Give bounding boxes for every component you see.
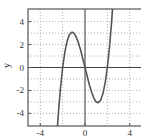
y-tick-label: 0	[20, 63, 25, 73]
y-axis-ticks: -4-2024	[17, 17, 32, 119]
x-tick-label: -4	[37, 128, 45, 138]
x-tick-label: 4	[127, 128, 132, 138]
y-tick-label: -4	[17, 108, 25, 118]
chart: -404 -4-2024 y	[0, 0, 141, 138]
y-tick-label: -2	[17, 85, 25, 95]
x-axis-ticks: -404	[37, 123, 133, 138]
x-tick-label: 0	[83, 128, 88, 138]
y-tick-label: 4	[20, 17, 25, 27]
y-tick-label: 2	[20, 40, 25, 50]
y-axis-label: y	[1, 63, 12, 68]
